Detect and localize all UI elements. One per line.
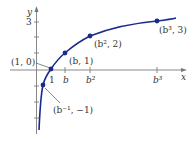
x-tick-b2: b² xyxy=(86,75,96,85)
x-tick-b: b xyxy=(63,75,69,85)
point-b3-3 xyxy=(155,19,160,24)
x-axis-label: x xyxy=(181,72,186,82)
x-tick-1: 1 xyxy=(49,75,55,85)
leader-line-binv xyxy=(45,88,60,103)
y-tick-3: 3 xyxy=(26,17,32,27)
label-b3-3: (b³, 3) xyxy=(159,25,187,35)
leader-line-1-0 xyxy=(36,63,50,68)
label-b-1: (b, 1) xyxy=(69,56,93,66)
log-graph: y 3 x 1 b b² b³ (1, 0) (b, 1) (b², 2) (b… xyxy=(0,0,195,141)
point-b2-2 xyxy=(88,34,93,39)
label-binv-neg1: (b⁻¹, −1) xyxy=(53,105,93,115)
axes xyxy=(10,9,184,134)
data-points xyxy=(41,19,160,88)
point-b-1 xyxy=(63,51,68,56)
label-b2-2: (b², 2) xyxy=(94,39,122,49)
y-axis-label: y xyxy=(26,7,33,17)
label-1-0: (1, 0) xyxy=(11,57,35,67)
y-axis-arrow-icon xyxy=(35,6,39,12)
point-1-0 xyxy=(49,67,54,72)
x-tick-b3: b³ xyxy=(153,75,163,85)
point-binv-neg1 xyxy=(41,83,46,88)
